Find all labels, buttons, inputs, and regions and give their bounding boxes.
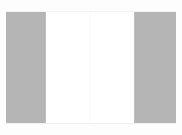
page-half-right[interactable]	[91, 12, 134, 123]
vertical-scrollbar[interactable]	[179, 11, 182, 124]
top-margin-strip	[0, 0, 182, 11]
left-side-pane[interactable]	[6, 12, 46, 123]
bottom-margin-strip	[0, 124, 182, 135]
viewer-canvas	[0, 0, 182, 135]
page-half-left[interactable]	[46, 12, 89, 123]
page-area[interactable]	[46, 12, 134, 123]
right-side-pane[interactable]	[134, 12, 176, 123]
document-viewer-frame[interactable]	[6, 11, 176, 124]
